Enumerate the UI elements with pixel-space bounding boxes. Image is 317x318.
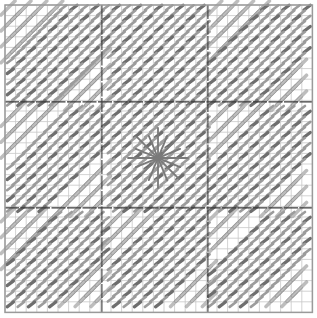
needlepoint-chart <box>0 0 317 318</box>
stitch-diagram <box>0 0 317 318</box>
center-star-motif <box>128 128 188 188</box>
